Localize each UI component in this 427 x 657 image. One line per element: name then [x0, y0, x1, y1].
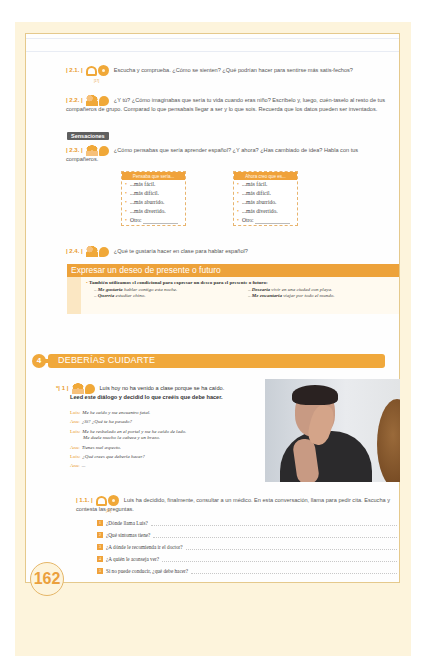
photo-shape — [292, 385, 338, 405]
speaking-icon — [99, 247, 109, 257]
blank-line[interactable] — [255, 223, 290, 224]
listening-icon — [86, 66, 97, 76]
exercise-icons — [86, 246, 109, 257]
audio-cd-icon — [98, 65, 109, 76]
dialog-line: Ana:¿Sí? ¿Qué te ha pasado? — [70, 417, 260, 426]
answer-line[interactable] — [186, 545, 397, 550]
table-item-other[interactable]: •Otro: — [234, 216, 297, 225]
table-item: •...más aburrido. — [122, 198, 185, 207]
table-header: Pensaba que sería... — [122, 172, 185, 180]
speaking-icon — [99, 146, 109, 156]
table-item: •...más divertido. — [234, 207, 297, 216]
exercise-2-4: | 2.4. | ¿Qué te gustaría hacer en clase… — [66, 246, 391, 257]
dialog-line: Ana:... — [70, 461, 260, 470]
question-text: ¿Dónde llama Luis? — [106, 520, 148, 526]
question-number: 2 — [97, 532, 103, 538]
question-text: ¿A dónde le recomienda ir el doctor? — [106, 544, 183, 550]
speaking-icon — [99, 96, 109, 106]
audio-cd-icon — [108, 495, 119, 506]
grammar-box: Expresar un deseo de presente o futuro •… — [67, 264, 399, 314]
exercise-number: | 1.1. | — [76, 497, 93, 503]
exercise-2-3: | 2.3. | ¿Cómo pensabas que sería aprend… — [66, 145, 391, 163]
table-item: •...más divertido. — [122, 207, 185, 216]
table-item: •...más fácil. — [234, 180, 297, 189]
exercise-number: | 2.2. | — [66, 97, 83, 103]
answer-line[interactable] — [153, 533, 397, 538]
exercise-icons — [86, 95, 109, 106]
question-text: ¿A quién le aconseja ver? — [106, 556, 159, 562]
listening-icon — [96, 496, 107, 506]
question-number: 1 — [97, 520, 103, 526]
exercise-icons — [86, 145, 109, 156]
question-text: ¿Qué síntomas tiene? — [106, 532, 150, 538]
exercise-text-line2: Leed este diálogo y decidid lo que creéi… — [56, 394, 266, 401]
header-rule — [26, 38, 399, 52]
table-item: •...más difícil. — [234, 189, 297, 198]
answer-line[interactable] — [151, 521, 397, 526]
examples-left: – Me gustaría hablar contigo esta noche.… — [86, 287, 240, 300]
photo-shape — [377, 399, 400, 482]
exercise-text: ¿Cómo pensabas que sería aprender españo… — [66, 147, 358, 162]
grammar-box-body: • También utilizamos el condicional para… — [81, 277, 399, 314]
group-work-icon — [86, 145, 98, 156]
page-number: 162 — [30, 562, 64, 596]
opinion-table-now: Ahora creo que es... •...más fácil. •...… — [233, 171, 298, 226]
question-number: 5 — [97, 568, 103, 574]
table-header: Ahora creo que es... — [234, 172, 297, 180]
exercise-number: | 2.4. | — [66, 248, 83, 254]
question-row: 4 ¿A quién le aconseja ver? — [97, 553, 397, 565]
man-holding-head-photo — [265, 379, 400, 482]
exercise-text: Escucha y comprueba. ¿Cómo se sienten? ¿… — [114, 67, 353, 73]
dialog-line: Ana:Tienes mal aspecto. — [70, 443, 260, 452]
speaking-icon — [85, 384, 95, 394]
exercise-icons — [96, 495, 119, 506]
grammar-box-title: Expresar un deseo de presente o futuro — [67, 264, 399, 277]
exercise-1: *| 1 | Luis hoy no ha venido a clase por… — [56, 383, 266, 401]
example: – Me encantaría viajar por todo el mundo… — [248, 293, 394, 300]
question-row: 1 ¿Dónde llama Luis? — [97, 517, 397, 529]
section-tag: Sensaciones — [67, 132, 109, 140]
question-text: Si no puede conducir, ¿qué debe hacer? — [106, 568, 188, 574]
exercise-icons — [86, 65, 109, 76]
table-item: •...más aburrido. — [234, 198, 297, 207]
grammar-rule: • También utilizamos el condicional para… — [86, 280, 394, 287]
example: – Me gustaría hablar contigo esta noche. — [94, 287, 240, 294]
question-row: 2 ¿Qué síntomas tiene? — [97, 529, 397, 541]
question-row: 5 Si no puede conducir, ¿qué debe hacer? — [97, 565, 397, 577]
question-list: 1 ¿Dónde llama Luis? 2 ¿Qué síntomas tie… — [97, 517, 397, 577]
exercise-icons — [72, 383, 95, 394]
dialog-line: Luis:Me he caído y me encuentro fatal. — [70, 408, 260, 417]
table-item-other[interactable]: •Otro: — [122, 216, 185, 225]
exercise-number: | 2.3. | — [66, 147, 83, 153]
answer-line[interactable] — [162, 557, 397, 562]
exercise-1-1: | 1.1. | Luis ha decidido, finalmente, c… — [76, 495, 396, 513]
exercise-number: | 2.1. | — [66, 67, 83, 73]
exercise-text: ¿Qué te gustaría hacer en clase para hab… — [114, 248, 248, 254]
track-number: [17] — [94, 78, 99, 85]
examples-right: – Desearía vivir en una ciudad con playa… — [240, 287, 394, 300]
dialog-line: Luis:¿Qué crees que debería hacer? — [70, 452, 260, 461]
example: – Querría estudiar chino. — [94, 293, 240, 300]
exercise-text: ¿Y tú? ¿Cómo imaginabas que sería tu vid… — [66, 97, 385, 112]
pair-work-icon — [86, 246, 98, 257]
exercise-2-2: | 2.2. | ¿Y tú? ¿Cómo imaginabas que ser… — [66, 95, 391, 113]
exercise-text-line1: Luis hoy no ha venido a clase porque se … — [100, 385, 225, 391]
question-number: 3 — [97, 544, 103, 550]
section-title: DEBERÍAS CUIDARTE — [58, 355, 155, 365]
table-item: •...más fácil. — [122, 180, 185, 189]
exercise-2-1: | 2.1. | Escucha y comprueba. ¿Cómo se s… — [66, 65, 391, 76]
exercise-text: Luis ha decidido, finalmente, consultar … — [76, 497, 390, 512]
blank-line[interactable] — [143, 223, 178, 224]
group-work-icon — [72, 383, 84, 394]
section-number: 4 — [32, 354, 46, 368]
question-number: 4 — [97, 556, 103, 562]
example: – Desearía vivir en una ciudad con playa… — [248, 287, 394, 294]
table-item: •...más difícil. — [122, 189, 185, 198]
grammar-examples: – Me gustaría hablar contigo esta noche.… — [86, 287, 394, 300]
track-number: [18] — [106, 508, 111, 515]
pair-work-icon — [86, 95, 98, 106]
exercise-number: *| 1 | — [56, 385, 68, 391]
section-header: DEBERÍAS CUIDARTE — [48, 354, 385, 368]
dialog: Luis:Me he caído y me encuentro fatal. A… — [70, 408, 260, 471]
answer-line[interactable] — [191, 569, 397, 574]
